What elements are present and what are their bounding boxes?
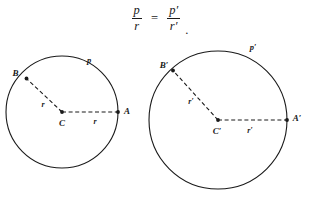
right-label-b-prime: B′: [159, 60, 169, 70]
right-label-arc-p-prime: p′: [249, 42, 257, 52]
left-label-arc-p: p: [86, 55, 91, 65]
two-circles-diagram: B A C p r r B′ A′ C′ p′ r′ r′: [0, 0, 319, 203]
right-label-radius-diagonal: r′: [188, 97, 193, 106]
left-label-a: A: [123, 106, 130, 116]
right-radius-cb-dashed: [173, 71, 218, 121]
left-label-c: C: [59, 118, 66, 128]
geometry-figure: p r = p′ r′ . B A C p r: [0, 0, 319, 203]
left-label-radius-diagonal: r: [41, 100, 45, 109]
left-center-point-c: [60, 110, 64, 114]
left-label-radius-horizontal: r: [93, 117, 97, 126]
right-center-point-c-prime: [216, 118, 220, 122]
right-label-radius-horizontal: r′: [247, 126, 252, 135]
left-point-a: [116, 110, 120, 114]
left-label-b: B: [11, 68, 18, 78]
right-label-c-prime: C′: [213, 126, 222, 136]
right-point-a-prime: [285, 118, 289, 122]
left-circle-group: B A C p r r: [6, 55, 130, 168]
left-point-b: [25, 77, 29, 81]
right-point-b-prime: [171, 69, 175, 73]
right-label-a-prime: A′: [292, 113, 302, 123]
right-circle-group: B′ A′ C′ p′ r′ r′: [149, 42, 302, 189]
